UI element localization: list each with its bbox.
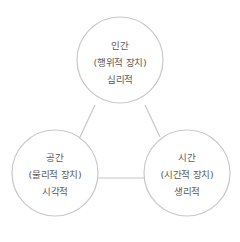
node-time: 시간 (시간적 장치) 생리적 [144,131,230,217]
node-aspect: 생리적 [174,183,200,200]
node-title: 공간 [46,149,63,166]
node-title: 인간 [111,37,128,54]
node-aspect: 심리적 [107,71,133,88]
node-subtitle: (행위적 장치) [93,54,146,71]
node-subtitle: (물리적 장치) [28,166,81,183]
node-aspect: 시각적 [42,183,68,200]
node-human: 인간 (행위적 장치) 심리적 [77,19,163,105]
node-title: 시간 [178,149,195,166]
node-subtitle: (시간적 장치) [160,166,213,183]
node-space: 공간 (물리적 장치) 시각적 [12,131,98,217]
